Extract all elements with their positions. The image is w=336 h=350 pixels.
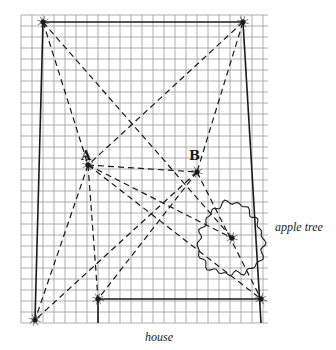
survey-diagram: A B apple tree house [0,0,336,350]
point-B-marker [195,170,199,174]
point-bottom-left-marker [33,318,37,322]
sight-line [88,165,197,172]
sight-line [88,165,232,238]
sight-line [43,22,88,165]
point-a-label: A [80,148,92,163]
sight-line [88,22,243,165]
point-b-label: B [189,148,200,163]
point-top-right-marker [241,20,245,24]
point-tree-center-marker [230,236,234,240]
house-label: house [145,330,174,344]
sight-line [197,22,243,172]
left-boundary-line [35,22,43,320]
point-house-left-marker [96,297,100,301]
point-house-right-marker [259,297,263,301]
point-A-marker [86,163,90,167]
sight-line [43,22,232,238]
solid-boundary-lines [35,22,261,323]
apple-tree-label: apple tree [275,220,324,234]
point-top-left-marker [41,20,45,24]
dashed-sight-lines [35,22,261,320]
